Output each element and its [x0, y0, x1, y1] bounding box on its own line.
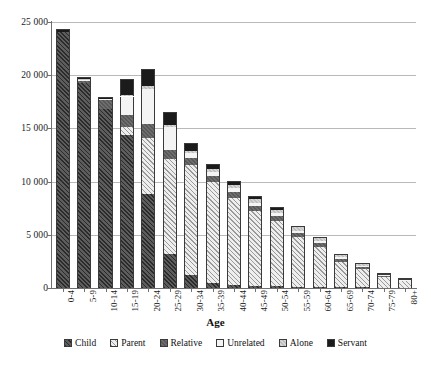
bar-segment[interactable]: [398, 280, 412, 281]
bar-segment[interactable]: [270, 210, 284, 214]
bar-segment[interactable]: [227, 192, 241, 198]
bar-segment[interactable]: [163, 150, 177, 160]
bar-segment[interactable]: [141, 89, 155, 124]
legend-item-child[interactable]: Child: [64, 338, 96, 348]
bar-segment[interactable]: [334, 259, 348, 262]
bar-top-edge: [163, 112, 177, 113]
bar-segment[interactable]: [141, 138, 155, 194]
legend-item-servant[interactable]: Servant: [327, 338, 367, 348]
bar-segment[interactable]: [248, 199, 262, 202]
bar-segment[interactable]: [184, 153, 198, 158]
bar-segment[interactable]: [77, 81, 91, 83]
legend-item-unrelated[interactable]: Unrelated: [216, 338, 264, 348]
bar-group[interactable]: [248, 196, 262, 288]
bar-segment[interactable]: [248, 211, 262, 286]
bar-top-edge: [77, 77, 91, 78]
bar-segment[interactable]: [227, 188, 241, 192]
bar-group[interactable]: [227, 181, 241, 288]
bar-group[interactable]: [184, 143, 198, 288]
bar-segment[interactable]: [163, 127, 177, 149]
bar-segment[interactable]: [355, 269, 369, 288]
bar-segment[interactable]: [334, 255, 348, 257]
bar-group[interactable]: [291, 226, 305, 288]
bar-segment[interactable]: [184, 275, 198, 288]
bar-segment[interactable]: [98, 109, 112, 288]
bar-group[interactable]: [56, 29, 70, 288]
bar-group[interactable]: [377, 274, 391, 288]
bar-group[interactable]: [163, 112, 177, 288]
bar-segment[interactable]: [77, 79, 91, 80]
bar-segment[interactable]: [163, 112, 177, 125]
bar-segment[interactable]: [141, 124, 155, 138]
bar-segment[interactable]: [163, 159, 177, 254]
bar-segment[interactable]: [355, 266, 369, 267]
bar-segment[interactable]: [206, 172, 220, 176]
bar-segment[interactable]: [120, 95, 134, 97]
bar-segment[interactable]: [120, 135, 134, 288]
bar-group[interactable]: [270, 207, 284, 288]
legend-swatch-relative-icon: [160, 339, 168, 347]
bar-segment[interactable]: [206, 176, 220, 182]
bar-segment[interactable]: [248, 206, 262, 211]
x-tick-label: 15-19: [130, 290, 140, 312]
bar-segment[interactable]: [206, 182, 220, 283]
bar-series-container: [52, 22, 416, 288]
legend-item-alone[interactable]: Alone: [279, 338, 313, 348]
bar-segment[interactable]: [291, 237, 305, 286]
bar-group[interactable]: [77, 77, 91, 288]
bar-top-edge: [184, 143, 198, 144]
bar-segment[interactable]: [141, 194, 155, 288]
bar-segment[interactable]: [120, 127, 134, 135]
bar-group[interactable]: [398, 279, 412, 288]
bar-segment[interactable]: [227, 198, 241, 285]
bar-segment[interactable]: [184, 165, 198, 276]
bar-segment[interactable]: [206, 169, 220, 172]
bar-group[interactable]: [355, 263, 369, 288]
bar-segment[interactable]: [313, 238, 327, 241]
x-tick-label: 45-49: [259, 290, 269, 312]
bar-segment[interactable]: [184, 151, 198, 154]
bar-segment[interactable]: [291, 233, 305, 237]
bar-group[interactable]: [141, 69, 155, 288]
legend-item-relative[interactable]: Relative: [160, 338, 203, 348]
bar-segment[interactable]: [270, 216, 284, 221]
x-tick-mark: [148, 288, 149, 292]
bar-group[interactable]: [120, 79, 134, 288]
bar-segment[interactable]: [98, 100, 112, 109]
bar-segment[interactable]: [141, 69, 155, 86]
bar-segment[interactable]: [355, 267, 369, 269]
bar-group[interactable]: [206, 164, 220, 288]
x-axis-title: Age: [0, 316, 431, 328]
bar-segment[interactable]: [398, 281, 412, 287]
bar-segment[interactable]: [120, 115, 134, 128]
bar-segment[interactable]: [141, 86, 155, 89]
bar-segment[interactable]: [313, 247, 327, 287]
bar-segment[interactable]: [270, 221, 284, 286]
bar-segment[interactable]: [313, 241, 327, 243]
bar-segment[interactable]: [334, 257, 348, 258]
bar-segment[interactable]: [184, 143, 198, 150]
bar-group[interactable]: [313, 237, 327, 288]
bar-segment[interactable]: [248, 203, 262, 206]
bar-segment[interactable]: [163, 125, 177, 127]
bar-segment[interactable]: [184, 158, 198, 164]
bar-segment[interactable]: [270, 213, 284, 216]
bar-group[interactable]: [334, 254, 348, 288]
bar-segment[interactable]: [291, 227, 305, 230]
bar-group[interactable]: [98, 97, 112, 288]
bar-segment[interactable]: [291, 231, 305, 233]
bar-segment[interactable]: [98, 99, 112, 100]
bar-segment[interactable]: [377, 277, 391, 288]
bar-segment[interactable]: [163, 254, 177, 288]
bar-segment[interactable]: [120, 79, 134, 94]
bar-segment[interactable]: [334, 262, 348, 288]
legend-item-parent[interactable]: Parent: [110, 338, 145, 348]
bar-segment[interactable]: [313, 243, 327, 247]
bar-segment[interactable]: [77, 83, 91, 288]
bar-segment[interactable]: [120, 97, 134, 115]
bar-segment[interactable]: [377, 276, 391, 277]
bar-segment[interactable]: [56, 32, 70, 288]
x-tick-label: 25-29: [173, 290, 183, 312]
bar-segment[interactable]: [227, 185, 241, 188]
plot-area: [52, 22, 416, 288]
